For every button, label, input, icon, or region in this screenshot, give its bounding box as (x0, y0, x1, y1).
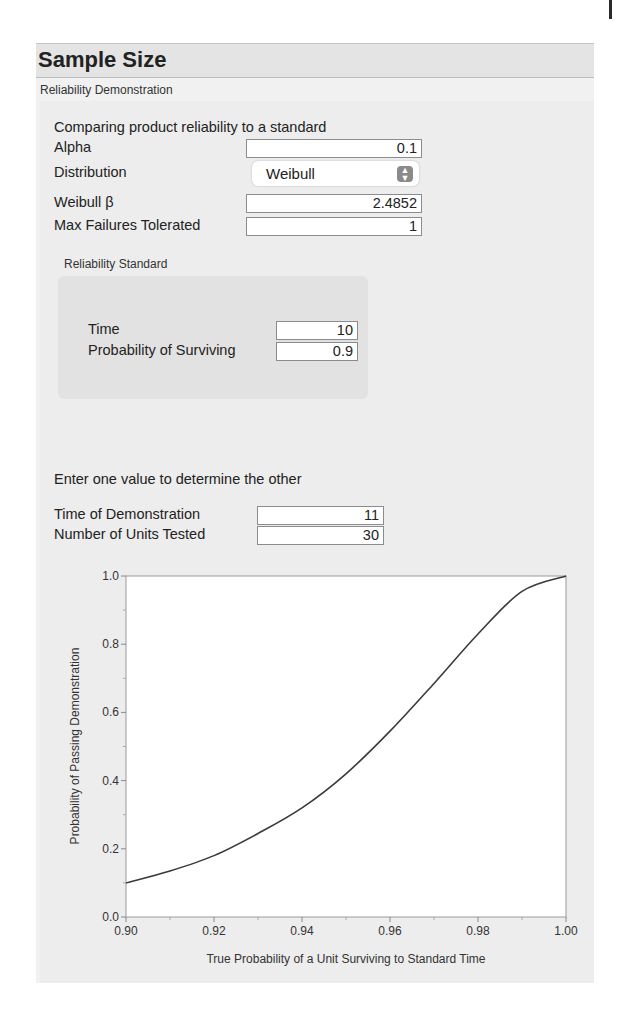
passing-probability-chart: 0.00.20.40.60.81.0 0.900.920.940.960.981… (0, 0, 622, 1028)
plot-area (126, 576, 566, 917)
y-tick-label: 1.0 (102, 569, 119, 583)
y-tick-label: 0.2 (102, 842, 119, 856)
x-tick-label: 0.92 (202, 924, 226, 938)
y-tick-label: 0.8 (102, 637, 119, 651)
x-axis: 0.900.920.940.960.981.00 (114, 917, 578, 938)
x-axis-title: True Probability of a Unit Surviving to … (206, 952, 485, 966)
y-tick-label: 0.4 (102, 774, 119, 788)
x-tick-label: 0.90 (114, 924, 138, 938)
y-tick-label: 0.0 (102, 910, 119, 924)
y-axis: 0.00.20.40.60.81.0 (102, 569, 126, 924)
y-axis-title: Probability of Passing Demonstration (68, 648, 82, 845)
x-tick-label: 0.98 (466, 924, 490, 938)
y-tick-label: 0.6 (102, 705, 119, 719)
x-tick-label: 0.94 (290, 924, 314, 938)
x-tick-label: 0.96 (378, 924, 402, 938)
x-tick-label: 1.00 (554, 924, 578, 938)
